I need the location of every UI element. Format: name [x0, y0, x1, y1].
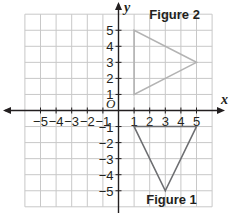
x-axis-right-arrow-icon [217, 107, 225, 114]
x-tick-label: −5 [33, 114, 48, 129]
x-tick-label: −2 [80, 114, 95, 129]
y-tick-label: −3 [99, 152, 114, 167]
origin-label: O [106, 96, 116, 111]
y-tick-label: 4 [106, 39, 113, 54]
y-axis-up-arrow-icon [115, 2, 122, 10]
figure-1-label: Figure 1 [146, 192, 197, 207]
y-tick-label: 5 [106, 23, 113, 38]
y-axis-label: y [122, 0, 131, 15]
y-tick-label: −2 [99, 136, 114, 151]
figure-2-label: Figure 2 [149, 7, 200, 22]
y-tick-label: 2 [106, 71, 113, 86]
y-tick-label: −5 [99, 184, 114, 199]
y-tick-label: −1 [99, 120, 114, 135]
x-axis-label: x [220, 92, 228, 107]
figures: Figure 1Figure 2 [134, 7, 200, 207]
coordinate-plane: −5−4−3−2−112345−5−4−3−2−112345 Figure 1F… [0, 0, 236, 213]
y-tick-label: 3 [106, 55, 113, 70]
y-tick-label: −4 [99, 168, 114, 183]
x-axis-left-arrow-icon [3, 107, 11, 114]
x-tick-label: −4 [49, 114, 64, 129]
x-tick-label: −3 [64, 114, 79, 129]
